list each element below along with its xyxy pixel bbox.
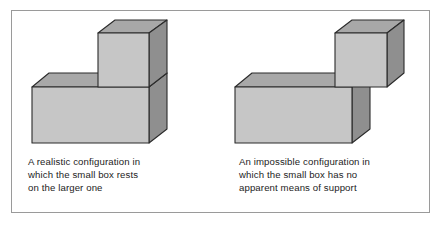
panel-impossible: An impossible configuration in which the… (222, 11, 431, 212)
large-box-front-face (235, 87, 352, 143)
impossible-box-illustration (222, 11, 431, 151)
small-box-front-face (98, 33, 149, 87)
caption-impossible: An impossible configuration in which the… (239, 155, 429, 195)
figure-root: A realistic configuration in which the s… (0, 0, 442, 226)
large-box-front-face (32, 87, 149, 143)
panel-realistic: A realistic configuration in which the s… (12, 11, 221, 212)
impossible-box-svg (222, 11, 431, 151)
caption-realistic: A realistic configuration in which the s… (28, 155, 218, 195)
realistic-box-illustration (12, 11, 221, 151)
realistic-box-svg (12, 11, 221, 151)
small-box-front-face (335, 33, 387, 87)
